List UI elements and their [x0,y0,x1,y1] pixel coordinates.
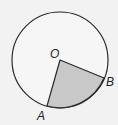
circle-diagram: O B A [0,0,118,125]
label-b: B [106,75,114,89]
label-a: A [36,109,45,123]
label-o: O [50,47,59,61]
